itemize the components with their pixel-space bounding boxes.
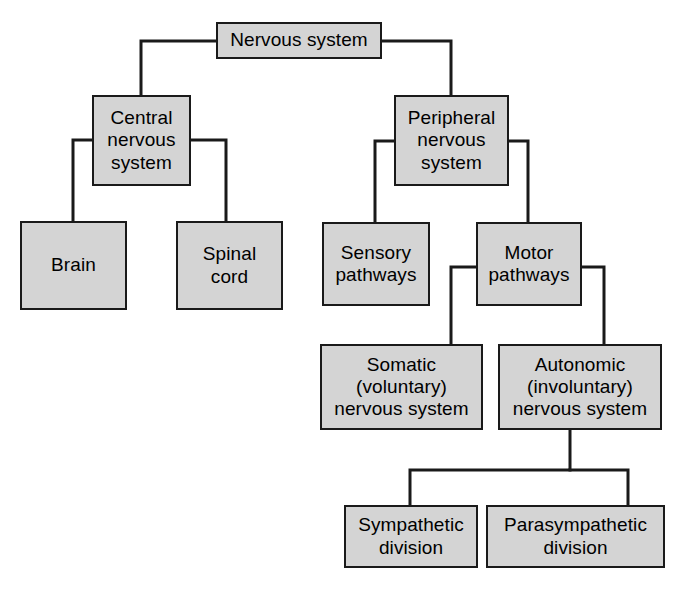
connector-autonomic-nervous-system-to-parasympathetic-division xyxy=(570,470,628,505)
node-label-nervous-system: Nervous system xyxy=(230,29,368,51)
node-label-brain: Brain xyxy=(51,254,96,276)
connector-nervous-system-to-central-nervous-system xyxy=(141,41,216,95)
node-label-somatic-nervous-system: Somatic (voluntary) nervous system xyxy=(334,354,468,420)
node-label-sympathetic-division: Sympathetic division xyxy=(358,514,464,558)
node-central-nervous-system: Central nervous system xyxy=(92,95,191,186)
connector-autonomic-nervous-system-to-sympathetic-division xyxy=(410,430,570,505)
connector-nervous-system-to-peripheral-nervous-system xyxy=(382,41,451,95)
node-sensory-pathways: Sensory pathways xyxy=(322,222,430,306)
node-label-sensory-pathways: Sensory pathways xyxy=(335,242,416,286)
connector-central-nervous-system-to-brain xyxy=(73,140,92,221)
node-autonomic-nervous-system: Autonomic (involuntary) nervous system xyxy=(498,344,662,430)
connector-motor-pathways-to-somatic-nervous-system xyxy=(451,267,476,344)
node-label-motor-pathways: Motor pathways xyxy=(488,242,569,286)
node-label-central-nervous-system: Central nervous system xyxy=(107,107,175,173)
node-peripheral-nervous-system: Peripheral nervous system xyxy=(394,95,509,186)
node-label-peripheral-nervous-system: Peripheral nervous system xyxy=(408,107,496,173)
node-nervous-system: Nervous system xyxy=(216,22,382,59)
node-spinal-cord: Spinal cord xyxy=(176,221,283,310)
node-sympathetic-division: Sympathetic division xyxy=(344,505,478,568)
connector-motor-pathways-to-autonomic-nervous-system xyxy=(582,267,604,344)
nervous-system-diagram: Nervous systemCentral nervous systemPeri… xyxy=(0,0,687,590)
connector-peripheral-nervous-system-to-motor-pathways xyxy=(509,141,528,222)
node-brain: Brain xyxy=(20,221,127,310)
node-somatic-nervous-system: Somatic (voluntary) nervous system xyxy=(320,344,483,430)
connector-central-nervous-system-to-spinal-cord xyxy=(191,140,226,221)
connector-peripheral-nervous-system-to-sensory-pathways xyxy=(375,141,394,222)
node-motor-pathways: Motor pathways xyxy=(476,222,582,306)
node-parasympathetic-division: Parasympathetic division xyxy=(486,505,665,568)
node-label-spinal-cord: Spinal cord xyxy=(203,243,256,287)
node-label-autonomic-nervous-system: Autonomic (involuntary) nervous system xyxy=(513,354,647,420)
node-label-parasympathetic-division: Parasympathetic division xyxy=(504,514,647,558)
